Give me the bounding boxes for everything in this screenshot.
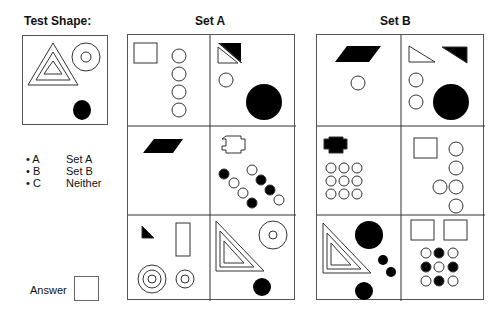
legend-item-c[interactable]: • CNeither	[26, 177, 101, 189]
legend-key: A	[32, 153, 39, 165]
answer-input[interactable]	[74, 276, 99, 301]
legend-label: Set B	[66, 165, 93, 177]
set-a-cell-4	[219, 136, 284, 208]
circle-icon	[172, 49, 186, 63]
set-a-grid	[127, 34, 295, 300]
set-a-figures	[128, 35, 296, 301]
test-shape-title: Test Shape:	[24, 14, 91, 28]
circle-icon	[219, 73, 233, 87]
triangle-outer-icon	[28, 43, 78, 85]
set-b-cell-4	[414, 138, 463, 213]
circle-icon	[172, 103, 186, 117]
set-a-cell-2	[218, 43, 282, 120]
answer-label: Answer	[30, 284, 67, 296]
circle-icon	[172, 85, 186, 99]
black-circle-icon	[73, 100, 91, 120]
triangle-middle-icon	[36, 52, 70, 80]
set-b-figures	[317, 35, 485, 301]
legend-item-a[interactable]: • ASet A	[26, 153, 101, 165]
legend-label: Set A	[66, 153, 92, 165]
black-parallelogram-icon	[335, 46, 381, 62]
black-circle-icon	[246, 84, 282, 120]
set-b-cell-2	[409, 46, 469, 120]
circle-icon	[172, 67, 186, 81]
circle-icon	[351, 76, 365, 90]
legend-label: Neither	[66, 177, 101, 189]
test-shape-panel	[22, 35, 108, 125]
set-a-title: Set A	[195, 14, 225, 28]
set-a-cell-1	[134, 43, 186, 117]
black-parallelogram-icon	[143, 139, 183, 153]
set-a-cell-6	[216, 221, 287, 296]
circle-outer-icon	[72, 43, 100, 71]
square-icon	[134, 43, 157, 63]
legend-item-b[interactable]: • BSet B	[26, 165, 101, 177]
set-b-title: Set B	[380, 14, 411, 28]
set-b-cell-6	[411, 220, 467, 286]
set-b-cell-3	[324, 137, 362, 199]
legend-key: C	[33, 177, 41, 189]
set-b-cell-5	[323, 221, 396, 300]
test-shape-figure	[23, 36, 109, 126]
set-b-grid	[316, 34, 484, 300]
legend: • ASet A • BSet B • CNeither	[26, 153, 101, 189]
legend-key: B	[33, 165, 40, 177]
circle-inner-icon	[81, 52, 91, 62]
set-a-cell-5	[138, 223, 194, 293]
